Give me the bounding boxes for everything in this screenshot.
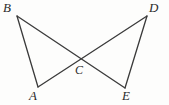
segment-BE (17, 16, 125, 88)
vertex-label-E: E (122, 89, 130, 102)
vertex-label-A: A (29, 89, 37, 102)
segment-DE (125, 16, 147, 88)
vertex-label-D: D (149, 1, 158, 14)
geometry-canvas (0, 0, 169, 105)
segment-BA (17, 16, 38, 87)
segments-group (17, 16, 147, 88)
vertex-label-C: C (75, 64, 83, 76)
segment-DA (38, 16, 147, 87)
vertex-label-B: B (3, 1, 11, 14)
geometry-figure: B D A E C (0, 0, 169, 105)
